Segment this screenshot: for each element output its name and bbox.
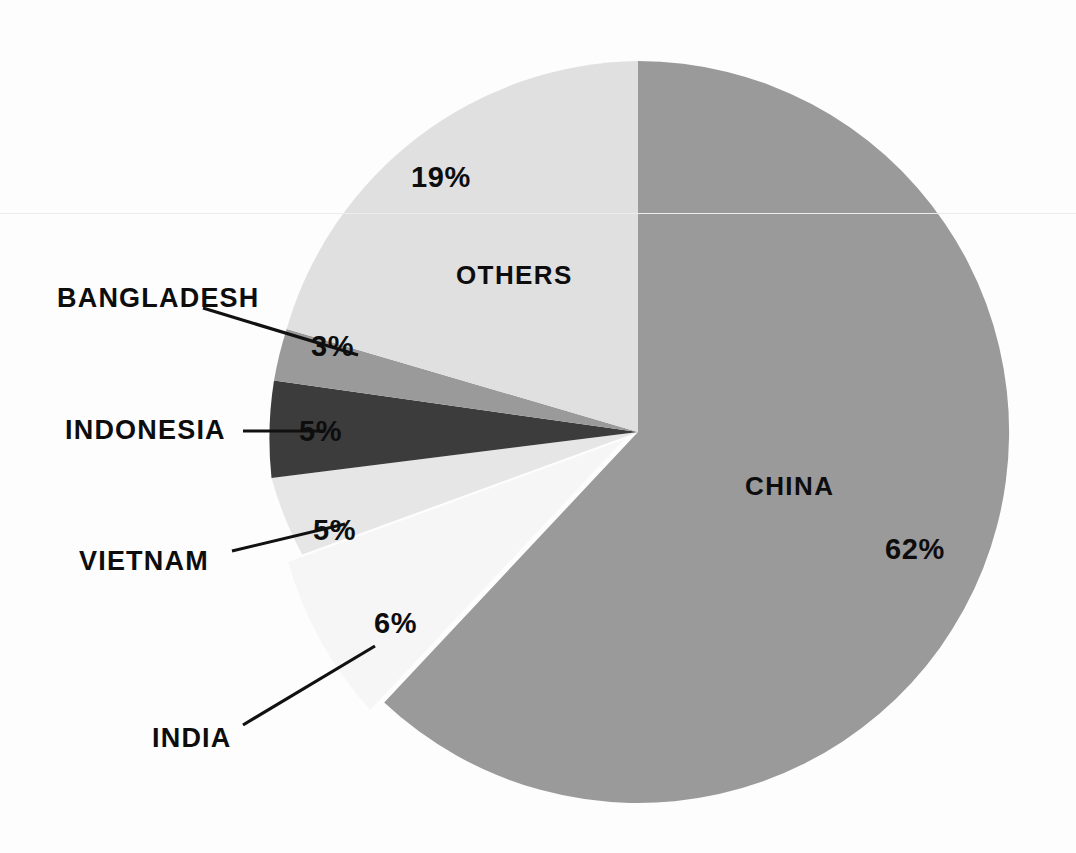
slice-label-china-percent: 62% <box>885 535 945 564</box>
slice-label-india-percent: 6% <box>374 609 417 638</box>
slice-label-vietnam-name: VIETNAM <box>79 548 209 575</box>
slice-label-others-percent: 19% <box>411 163 471 192</box>
slice-label-bangladesh-percent: 3% <box>311 332 354 361</box>
slice-label-indonesia-name: INDONESIA <box>65 417 226 444</box>
slice-label-indonesia-percent: 5% <box>299 417 342 446</box>
slice-label-india-name: INDIA <box>152 725 232 752</box>
slice-label-china-name: CHINA <box>745 473 834 499</box>
chart-canvas: 19% OTHERS BANGLADESH 3% INDONESIA 5% 5%… <box>0 0 1076 853</box>
slice-label-vietnam-percent: 5% <box>313 516 356 545</box>
slice-label-bangladesh-name: BANGLADESH <box>57 285 260 312</box>
slice-label-others-name: OTHERS <box>456 262 573 288</box>
